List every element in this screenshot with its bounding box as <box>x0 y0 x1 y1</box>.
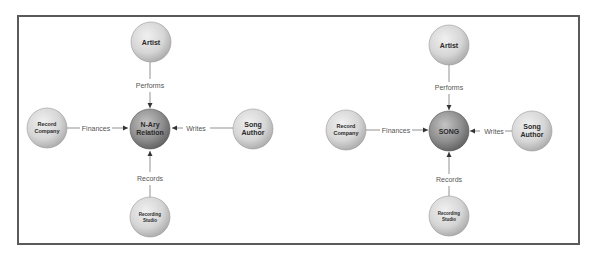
node-label-line-1: Song <box>244 121 262 129</box>
edge-records: Records <box>436 152 463 196</box>
edge-writes: Writes <box>172 125 233 132</box>
node-label-line-1: Recording <box>438 211 461 216</box>
edge-label-records: Records <box>436 176 463 183</box>
diagram-nary-relation: Performs Finances Writes Records Artist … <box>27 22 273 237</box>
node-song-author: Song Author <box>233 109 273 149</box>
edge-label-performs: Performs <box>136 82 165 89</box>
edge-label-writes: Writes <box>186 125 206 132</box>
node-center-nary-relation: N-Ary Relation <box>130 109 170 149</box>
node-label-line-1: Recording <box>139 212 162 217</box>
node-label-line-2: Studio <box>143 218 157 223</box>
edge-label-performs: Performs <box>435 84 464 91</box>
node-label-line-2: Author <box>242 129 265 136</box>
node-label-line-2: Relation <box>136 129 164 136</box>
edge-finances: Finances <box>67 125 128 132</box>
edge-label-records: Records <box>137 175 164 182</box>
edge-label-finances: Finances <box>82 125 111 132</box>
node-song-author: Song Author <box>512 111 552 151</box>
node-label-line-2: Company <box>34 128 60 134</box>
node-record-company: Record Company <box>27 108 67 148</box>
edge-performs: Performs <box>136 62 165 108</box>
node-label-line-1: Song <box>523 123 541 131</box>
edge-performs: Performs <box>435 65 464 110</box>
node-label-line-1: Record <box>337 123 356 129</box>
node-label: Artist <box>142 39 161 46</box>
edge-label-finances: Finances <box>382 127 411 134</box>
node-label-line-1: N-Ary <box>140 121 159 129</box>
edge-finances: Finances <box>366 127 428 134</box>
node-label-line-2: Author <box>521 131 544 138</box>
node-label: Artist <box>440 42 459 49</box>
node-label-line-2: Company <box>333 130 359 136</box>
diagram-song: Performs Finances Writes Records Artist … <box>326 25 552 236</box>
node-artist: Artist <box>131 22 171 62</box>
node-recording-studio: Recording Studio <box>130 197 170 237</box>
edge-writes: Writes <box>470 128 512 135</box>
node-label-line-2: Studio <box>442 217 456 222</box>
node-label-line-1: Record <box>38 121 57 127</box>
edge-label-writes: Writes <box>484 128 504 135</box>
node-label: SONG <box>439 128 460 135</box>
node-center-song: SONG <box>429 111 469 151</box>
nary-relation-diagrams: Performs Finances Writes Records Artist … <box>0 0 597 259</box>
edge-records: Records <box>137 151 164 197</box>
node-artist: Artist <box>429 25 469 65</box>
node-recording-studio: Recording Studio <box>429 196 469 236</box>
node-record-company: Record Company <box>326 110 366 150</box>
